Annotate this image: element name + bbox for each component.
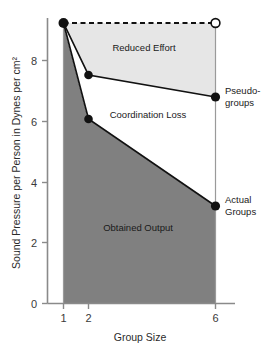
y-tick-label-8: 8 [31,55,37,67]
datapoint-pseudo-group2 [84,71,93,80]
y-tick-label-2: 2 [31,237,37,249]
datapoint-group1-shared [59,18,69,28]
y-tick-label-0: 0 [31,298,37,310]
x-tick-label-6: 6 [212,312,218,324]
ringelmann-effect-chart: 8 6 4 2 0 1 2 6 Sound Pressure per Perso… [0,0,271,353]
chart-figure: 8 6 4 2 0 1 2 6 Sound Pressure per Perso… [0,0,271,353]
series-label-actual-groups-line2: Groups [225,206,256,217]
annotation-coordination-loss: Coordination Loss [110,109,187,120]
x-tick-label-1: 1 [60,312,66,324]
x-axis-ticks [64,304,216,310]
y-tick-label-4: 4 [31,177,37,189]
x-axis-title: Group Size [114,331,167,343]
datapoint-actual-group2 [84,115,93,124]
series-label-pseudo-groups-line2: groups [225,97,254,108]
series-label-pseudo-groups-line1: Pseudo- [225,85,260,96]
datapoint-potential-group6 [211,19,220,28]
annotation-obtained-output: Obtained Output [103,222,173,233]
datapoint-actual-group6 [211,201,220,210]
series-label-actual-groups-line1: Actual [225,194,251,205]
datapoint-pseudo-group6 [211,92,220,101]
y-tick-label-6: 6 [31,116,37,128]
y-axis-ticks [42,61,48,304]
x-tick-label-2: 2 [85,312,91,324]
y-axis-title: Sound Pressure per Person in Dynes per c… [10,57,22,269]
annotation-reduced-effort: Reduced Effort [112,42,176,53]
